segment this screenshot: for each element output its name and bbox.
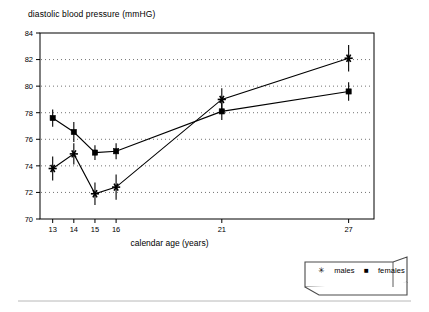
chart-figure: diastolic blood pressure (mmHG) 70727476… [0,0,429,312]
y-tick-label: 72 [25,188,33,197]
gridlines [41,60,373,193]
y-tick-label: 74 [25,162,33,171]
chart-title: diastolic blood pressure (mmHG) [28,9,155,19]
x-tick-label: 16 [112,225,120,234]
x-axis-label-text: calendar age (years) [131,238,209,248]
series-males [49,45,353,205]
x-axis-label: calendar age (years) [0,238,429,248]
data-point-females [114,149,119,154]
x-tick-label: 21 [218,225,226,234]
y-tick-label: 82 [25,55,33,64]
y-axis-ticks [36,33,40,219]
y-tick-label: 70 [25,215,33,224]
legend-females-label: females [378,266,405,275]
x-tick-label: 27 [344,225,352,234]
legend-females-marker-icon: ■ [364,266,369,275]
y-tick-label: 76 [25,135,33,144]
y-tick-label: 78 [25,109,33,118]
x-axis-tick-labels: 131415162127 [49,225,353,234]
legend-males-label: males [334,266,355,275]
data-point-females [50,115,55,120]
legend-entries: ✳ males ■ females [318,266,405,275]
series-females [50,82,351,160]
data-point-females [346,89,351,94]
x-tick-label: 14 [70,225,78,234]
series-line-females [53,92,349,153]
y-tick-label: 84 [25,29,33,38]
x-tick-label: 15 [91,225,99,234]
legend-males-marker-icon: ✳ [318,266,325,275]
data-point-females [71,129,76,134]
plot-frame [40,33,374,219]
legend-box [303,256,413,298]
x-axis-ticks [53,219,349,223]
y-axis-tick-labels: 7072747678808284 [25,29,33,224]
data-point-females [92,150,97,155]
x-tick-label: 13 [49,225,57,234]
y-tick-label: 80 [25,82,33,91]
series-line-males [53,58,349,194]
